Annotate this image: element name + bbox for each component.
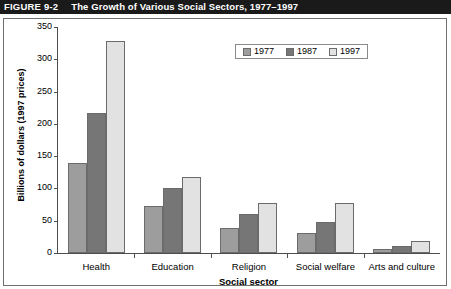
bar-arts-and-culture-1997[interactable] — [411, 241, 430, 253]
x-tick-mark — [364, 253, 365, 258]
bar-social-welfare-1997[interactable] — [335, 203, 354, 253]
bar-group-bars — [287, 27, 363, 253]
bar-health-1977[interactable] — [68, 163, 87, 253]
legend: 197719871997 — [235, 44, 368, 59]
y-tick-label: 350 — [26, 22, 52, 31]
bar-arts-and-culture-1987[interactable] — [392, 246, 411, 253]
y-tick-label: 200 — [26, 119, 52, 128]
legend-swatch-1977 — [243, 48, 251, 56]
legend-item-1977[interactable]: 1977 — [243, 47, 274, 56]
x-axis-title: Social sector — [57, 276, 440, 287]
y-tick-label: 300 — [26, 54, 52, 63]
bar-religion-1977[interactable] — [220, 228, 239, 253]
legend-item-1987[interactable]: 1987 — [286, 47, 317, 56]
x-tick-mark — [134, 253, 135, 258]
category-label-health: Health — [58, 261, 134, 272]
bar-group — [134, 27, 210, 253]
bar-social-welfare-1987[interactable] — [316, 222, 335, 253]
bar-social-welfare-1977[interactable] — [297, 233, 316, 253]
category-label-education: Education — [134, 261, 210, 272]
bar-group — [211, 27, 287, 253]
bar-religion-1997[interactable] — [258, 203, 277, 253]
bar-health-1987[interactable] — [87, 113, 106, 253]
legend-label-1987: 1987 — [297, 47, 317, 56]
y-tick-label: 250 — [26, 87, 52, 96]
y-tick-label: 50 — [26, 216, 52, 225]
legend-swatch-1987 — [286, 48, 294, 56]
bar-group-bars — [364, 27, 440, 253]
bar-group — [364, 27, 440, 253]
bar-group — [58, 27, 134, 253]
bar-group-bars — [211, 27, 287, 253]
bar-education-1987[interactable] — [163, 188, 182, 253]
bar-arts-and-culture-1977[interactable] — [373, 249, 392, 253]
x-tick-mark — [287, 253, 288, 258]
legend-item-1997[interactable]: 1997 — [329, 47, 360, 56]
bar-group-bars — [58, 27, 134, 253]
bar-group-bars — [134, 27, 210, 253]
bar-group — [287, 27, 363, 253]
category-label-religion: Religion — [211, 261, 287, 272]
category-label-arts-and-culture: Arts and culture — [364, 261, 440, 272]
bar-education-1977[interactable] — [144, 206, 163, 253]
bar-chart: Billions of dollars (1997 prices) 050100… — [0, 0, 451, 289]
bar-education-1997[interactable] — [182, 177, 201, 253]
legend-label-1997: 1997 — [340, 47, 360, 56]
x-axis-line — [57, 253, 440, 254]
y-tick-label: 150 — [26, 151, 52, 160]
y-tick-label: 0 — [26, 248, 52, 257]
bar-religion-1987[interactable] — [239, 214, 258, 253]
y-tick-label: 100 — [26, 183, 52, 192]
category-label-social-welfare: Social welfare — [287, 261, 363, 272]
bar-health-1997[interactable] — [106, 41, 125, 253]
plot-canvas — [58, 27, 440, 253]
legend-label-1977: 1977 — [254, 47, 274, 56]
legend-swatch-1997 — [329, 48, 337, 56]
x-tick-mark — [211, 253, 212, 258]
y-axis-title: Billions of dollars (1997 prices) — [16, 35, 26, 235]
